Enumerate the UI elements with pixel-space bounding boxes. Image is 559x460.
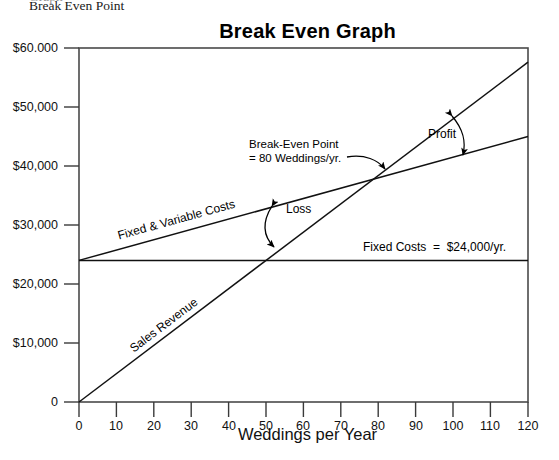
y-tick-label-20000: $20,000 xyxy=(0,277,58,291)
profit-region-label: Profit xyxy=(428,128,456,142)
chart-plot-area xyxy=(0,0,559,460)
y-tick-label-30000: $30,000 xyxy=(0,218,58,232)
break-even-chart-page: Graph Break Even Point Break Even Graph xyxy=(0,0,559,460)
break-even-leader-arrow xyxy=(347,156,385,169)
y-tick-label-10000: $10,000 xyxy=(0,336,58,350)
x-tick-marks xyxy=(79,402,528,417)
x-axis-title: Weddings per Year xyxy=(0,425,559,444)
y-tick-label-0: 0 xyxy=(0,395,58,409)
fixed-costs-note: Fixed Costs = $24,000/yr. xyxy=(363,241,506,255)
y-tick-label-40000: $40,000 xyxy=(0,159,58,173)
y-tick-label-60000: $60.000 xyxy=(0,41,58,55)
y-tick-label-50000: $50,000 xyxy=(0,100,58,114)
y-tick-marks xyxy=(64,48,79,402)
break-even-callout-line1: Break-Even Point xyxy=(249,138,339,152)
loss-region-label: Loss xyxy=(286,203,311,217)
break-even-callout-line2: = 80 Weddings/yr. xyxy=(249,152,341,166)
loss-span-arrow xyxy=(265,206,274,247)
